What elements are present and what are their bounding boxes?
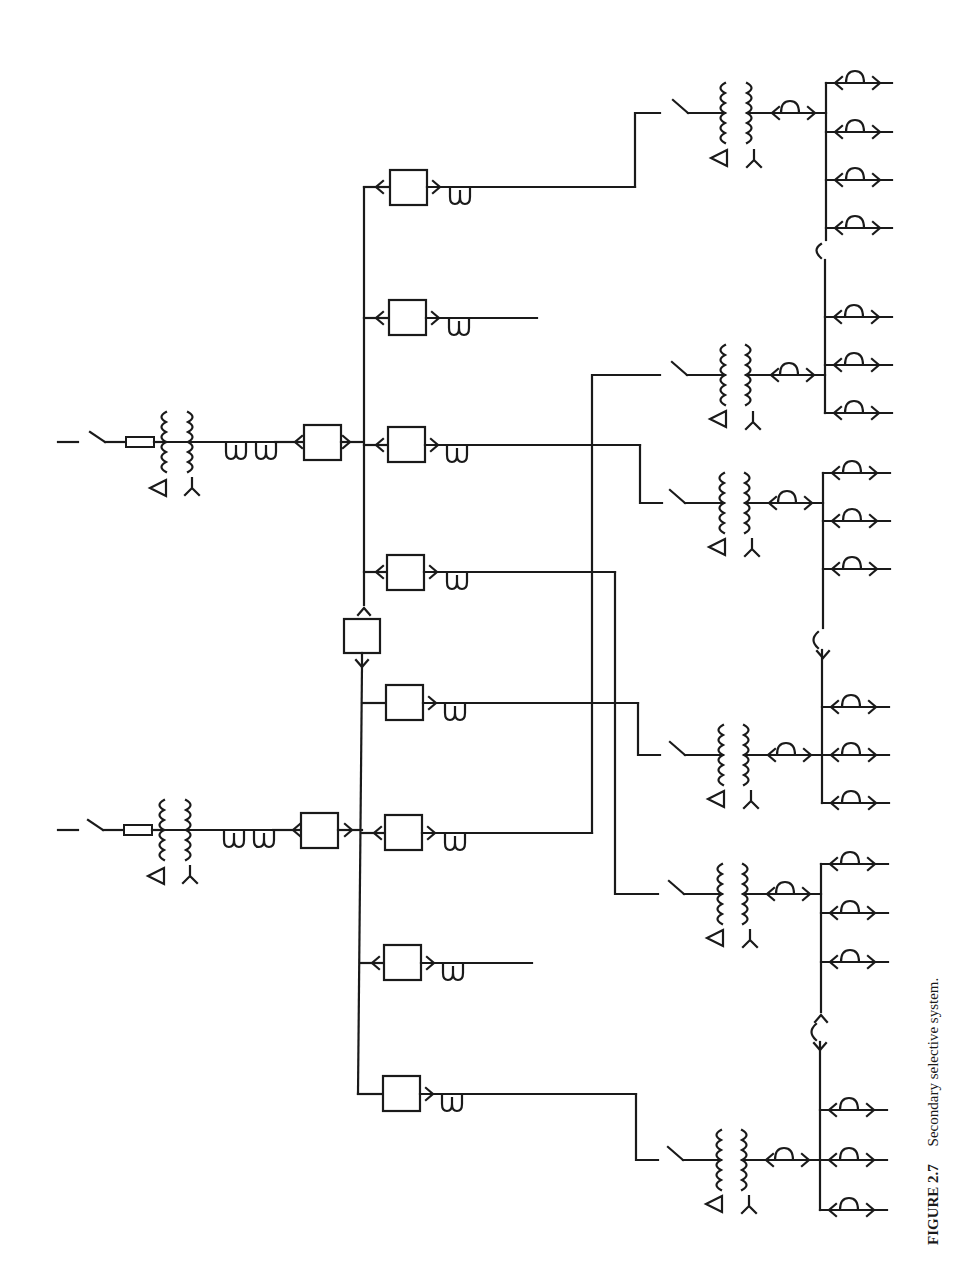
main-bus-section-2 <box>358 665 362 1094</box>
substation-4 <box>670 650 889 809</box>
figure-caption: FIGURE 2.7 Secondary selective system. <box>925 978 942 1245</box>
delta-icon <box>710 411 726 427</box>
feeder-breaker <box>389 300 426 335</box>
feeder-2-spare <box>364 300 537 335</box>
current-transformer-icon <box>254 830 274 847</box>
delta-icon <box>707 930 723 946</box>
feeder-breaker <box>383 1076 420 1111</box>
loads-bus-a <box>826 71 892 234</box>
primary-source-2 <box>58 800 362 884</box>
current-transformer-icon <box>447 445 467 462</box>
bus-tie-breaker <box>344 619 380 653</box>
current-transformer-icon <box>447 572 467 589</box>
loads-bus-c <box>823 461 890 575</box>
wye-icon <box>745 539 759 556</box>
disconnect-switch <box>670 742 685 755</box>
drawout-arrow-icon <box>358 608 370 615</box>
current-transformer-icon <box>445 833 465 850</box>
wye-icon <box>743 930 757 947</box>
wye-icon <box>746 412 760 429</box>
current-transformer-icon <box>449 318 469 335</box>
current-transformer-icon <box>256 442 276 459</box>
feeder-breaker <box>385 815 422 850</box>
disconnect-switch <box>668 1147 683 1160</box>
current-transformer-icon <box>224 830 244 847</box>
feeder-breaker <box>384 945 421 980</box>
figure-number: FIGURE 2.7 <box>925 1164 941 1245</box>
wye-icon <box>185 478 199 495</box>
secondary-selective-system-diagram <box>0 0 977 1281</box>
substation-6 <box>668 1042 887 1216</box>
loads-bus-f <box>820 1098 887 1216</box>
secondary-tie-breaker-ef <box>812 1024 817 1040</box>
delta-icon <box>150 480 166 496</box>
feeders <box>358 113 662 1160</box>
current-transformer-icon <box>450 187 470 204</box>
feeder-3 <box>364 427 662 503</box>
substation-1 <box>673 71 892 240</box>
current-transformer-icon <box>443 963 463 980</box>
current-transformer-icon <box>445 703 465 720</box>
delta-icon <box>709 539 725 555</box>
wye-icon <box>742 1196 756 1213</box>
wye-icon <box>744 791 758 808</box>
substation-5 <box>669 852 888 1012</box>
disconnect-switch <box>88 820 103 830</box>
figure-title: Secondary selective system. <box>925 978 941 1147</box>
disconnect-switch <box>673 100 688 113</box>
wye-icon <box>747 150 761 167</box>
feeder-7-spare <box>360 945 532 980</box>
current-transformer-icon <box>442 1094 462 1111</box>
disconnect-switch <box>670 490 685 503</box>
loads-bus-e <box>821 852 888 968</box>
main-breaker-1 <box>304 425 341 460</box>
main-bus <box>344 187 380 1094</box>
feeder-1 <box>364 113 660 205</box>
feeder-breaker <box>387 555 424 590</box>
disconnect-switch <box>669 881 684 894</box>
delta-icon <box>706 1196 722 1212</box>
secondary-tie-breaker-ab <box>817 244 822 258</box>
delta-icon <box>708 791 724 807</box>
loads-bus-b <box>825 305 892 419</box>
substation-2 <box>672 260 892 429</box>
fuse-icon <box>124 825 152 835</box>
secondary-tie-breaker-cd <box>814 632 819 648</box>
fuse-icon <box>126 437 154 447</box>
main-breaker-2 <box>301 813 338 848</box>
delta-icon <box>711 150 727 166</box>
primary-source-1 <box>58 412 362 496</box>
disconnect-switch <box>672 362 687 375</box>
feeder-8 <box>358 1076 658 1160</box>
feeder-breaker <box>390 170 427 205</box>
feeder-breaker <box>386 685 423 720</box>
loads-bus-d <box>822 695 889 809</box>
disconnect-switch <box>90 432 105 442</box>
current-transformer-icon <box>226 442 246 459</box>
feeder-breaker <box>388 427 425 462</box>
substation-3 <box>670 461 890 628</box>
wye-icon <box>183 866 197 883</box>
delta-icon <box>148 868 164 884</box>
